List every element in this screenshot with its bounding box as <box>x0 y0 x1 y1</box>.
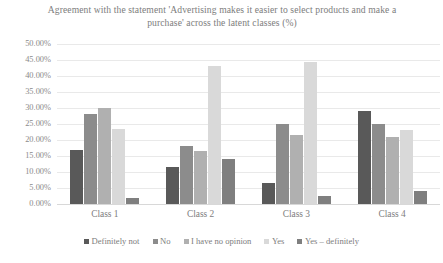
legend-label: Yes – definitely <box>305 236 359 246</box>
bar <box>372 124 385 204</box>
bar <box>98 108 111 204</box>
legend-item[interactable]: Yes – definitely <box>297 236 359 246</box>
bars-layer <box>57 44 440 204</box>
bar <box>84 114 97 204</box>
bar <box>70 150 83 204</box>
x-axis-category-label: Class 3 <box>249 207 345 223</box>
y-axis-tick-label: 0.00% <box>0 200 51 208</box>
bar <box>304 62 317 204</box>
y-axis-tick-label: 35.00% <box>0 88 51 96</box>
bar <box>112 129 125 204</box>
x-axis-category-label: Class 1 <box>57 207 153 223</box>
legend-label: Yes <box>272 236 285 246</box>
bar-chart: Agreement with the statement 'Advertisin… <box>0 0 443 263</box>
y-axis-tick-label: 5.00% <box>0 184 51 192</box>
bar-group <box>249 44 345 204</box>
y-axis-tick-label: 15.00% <box>0 152 51 160</box>
chart-legend: Definitely notNoI have no opinionYesYes … <box>0 236 443 246</box>
bar <box>276 124 289 204</box>
bar <box>166 167 179 204</box>
bar <box>290 135 303 204</box>
legend-label: No <box>160 236 171 246</box>
bar <box>400 130 413 204</box>
legend-swatch-icon <box>184 239 189 244</box>
chart-title: Agreement with the statement 'Advertisin… <box>46 3 398 29</box>
legend-item[interactable]: No <box>153 236 171 246</box>
legend-swatch-icon <box>153 239 158 244</box>
bar <box>262 183 275 204</box>
y-axis-tick-label: 50.00% <box>0 40 51 48</box>
y-axis: 50.00%45.00%40.00%35.00%30.00%25.00%20.0… <box>0 44 54 204</box>
legend-label: Definitely not <box>92 236 140 246</box>
legend-item[interactable]: I have no opinion <box>184 236 252 246</box>
y-axis-tick-label: 10.00% <box>0 168 51 176</box>
legend-item[interactable]: Definitely not <box>84 236 139 246</box>
bars-container <box>57 44 440 204</box>
bar <box>414 191 427 204</box>
legend-item[interactable]: Yes <box>264 236 284 246</box>
bar <box>318 196 331 204</box>
bar <box>358 111 371 204</box>
legend-label: I have no opinion <box>191 236 251 246</box>
bar-group <box>344 44 440 204</box>
bar <box>126 198 139 204</box>
bar-group <box>57 44 153 204</box>
plot-area: 50.00%45.00%40.00%35.00%30.00%25.00%20.0… <box>0 44 443 204</box>
axis-baseline <box>57 204 440 205</box>
y-axis-tick-label: 40.00% <box>0 72 51 80</box>
legend-swatch-icon <box>297 239 302 244</box>
bar <box>208 66 221 204</box>
legend-swatch-icon <box>84 239 89 244</box>
y-axis-tick-label: 45.00% <box>0 56 51 64</box>
bar <box>194 151 207 204</box>
bar-group <box>153 44 249 204</box>
y-axis-tick-label: 25.00% <box>0 120 51 128</box>
x-axis-category-label: Class 4 <box>344 207 440 223</box>
legend-swatch-icon <box>264 239 269 244</box>
y-axis-tick-label: 20.00% <box>0 136 51 144</box>
y-axis-tick-label: 30.00% <box>0 104 51 112</box>
bar <box>180 146 193 204</box>
bar <box>222 159 235 204</box>
x-axis: Class 1Class 2Class 3Class 4 <box>57 207 440 223</box>
x-axis-category-label: Class 2 <box>153 207 249 223</box>
bar <box>386 137 399 204</box>
